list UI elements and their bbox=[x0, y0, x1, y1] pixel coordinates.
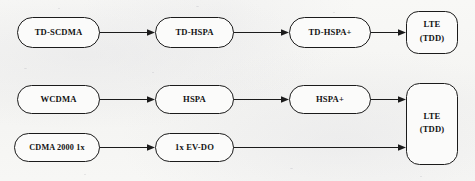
node-lte-tdd-merged[interactable]: LTE (TDD) bbox=[407, 84, 458, 165]
edge-hspa-plus-to-lte-tdd-merged bbox=[371, 96, 407, 102]
node-lte-tdd-merged-label-line2: (TDD) bbox=[420, 124, 445, 134]
node-lte-tdd-top[interactable]: LTE (TDD) bbox=[407, 12, 458, 54]
node-hspa-plus-label: HSPA+ bbox=[316, 94, 344, 104]
node-hspa[interactable]: HSPA bbox=[156, 86, 234, 114]
edge-arrowhead bbox=[281, 96, 289, 102]
edge-arrowhead bbox=[147, 96, 155, 102]
node-lte-tdd-top-label-line2: (TDD) bbox=[420, 33, 445, 43]
node-hspa-plus[interactable]: HSPA+ bbox=[290, 86, 371, 114]
node-td-scdma-label: TD-SCDMA bbox=[35, 27, 83, 37]
edge-td-scdma-to-td-hspa bbox=[100, 29, 156, 35]
node-hspa-label: HSPA bbox=[183, 94, 207, 104]
edge-1x-ev-do-to-lte-tdd-merged bbox=[234, 144, 407, 150]
evolution-diagram: TD-SCDMA TD-HSPA TD-HSPA+ LTE (TDD) bbox=[0, 0, 475, 181]
edge-arrowhead bbox=[147, 29, 155, 35]
node-td-hspa[interactable]: TD-HSPA bbox=[156, 18, 234, 48]
node-1x-ev-do[interactable]: 1x EV-DO bbox=[156, 134, 234, 162]
node-lte-tdd-top-label-line1: LTE bbox=[424, 19, 441, 29]
edge-td-hspa-to-td-hspa-plus bbox=[234, 29, 290, 35]
edge-arrowhead bbox=[281, 29, 289, 35]
node-td-hspa-label: TD-HSPA bbox=[175, 27, 214, 37]
edge-cdma2000-to-1x-ev-do bbox=[100, 144, 156, 150]
node-wcdma-label: WCDMA bbox=[40, 94, 77, 104]
node-td-scdma[interactable]: TD-SCDMA bbox=[18, 18, 100, 48]
edge-arrowhead bbox=[398, 144, 406, 150]
node-td-hspa-plus[interactable]: TD-HSPA+ bbox=[290, 18, 371, 48]
edge-hspa-to-hspa-plus bbox=[234, 96, 290, 102]
edge-arrowhead bbox=[398, 29, 406, 35]
node-lte-tdd-merged-label-line1: LTE bbox=[424, 111, 441, 121]
edge-td-hspa-plus-to-lte-tdd-top bbox=[371, 29, 407, 35]
edge-arrowhead bbox=[398, 96, 406, 102]
node-wcdma[interactable]: WCDMA bbox=[18, 86, 100, 114]
edge-wcdma-to-hspa bbox=[100, 96, 156, 102]
node-td-hspa-plus-label: TD-HSPA+ bbox=[308, 27, 351, 37]
node-cdma2000-1x-label: CDMA 2000 1x bbox=[29, 143, 85, 152]
node-cdma2000-1x[interactable]: CDMA 2000 1x bbox=[15, 134, 100, 162]
node-1x-ev-do-label: 1x EV-DO bbox=[175, 142, 214, 152]
edge-arrowhead bbox=[147, 144, 155, 150]
